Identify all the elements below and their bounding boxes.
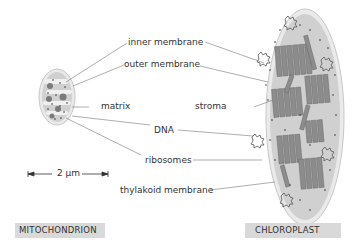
label-inner-membrane: inner membrane [128, 38, 203, 47]
label-thylakoid-membrane: thylakoid membrane [120, 186, 213, 195]
scale-bar-label: 2 µm [57, 169, 80, 178]
label-ribosomes: ribosomes [145, 156, 192, 165]
label-matrix: matrix [101, 102, 130, 111]
label-stroma: stroma [195, 102, 227, 111]
label-dna: DNA [154, 126, 174, 135]
label-outer-membrane: outer membrane [124, 60, 200, 69]
caption-chloroplast: CHLOROPLAST [245, 223, 341, 238]
caption-mitochondrion: MITOCHONDRION [15, 223, 105, 238]
chloroplast-illustration [251, 9, 344, 225]
mitochondrion-illustration [39, 69, 75, 125]
